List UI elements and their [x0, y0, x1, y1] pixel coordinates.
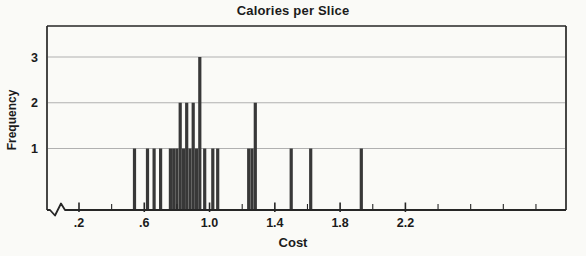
histogram-bar [159, 149, 162, 211]
plot-area: 123.2.61.01.41.82.2 [0, 0, 586, 256]
histogram-bar [360, 149, 363, 211]
histogram-bar [247, 149, 250, 211]
x-axis-with-break-squiggle [47, 204, 566, 216]
histogram-bar [211, 149, 214, 211]
histogram-bar [203, 149, 206, 211]
y-tick-label: 3 [31, 51, 38, 65]
histogram-bar [179, 103, 182, 210]
x-axis-label: Cost [0, 235, 586, 250]
histogram-bar [216, 149, 219, 211]
histogram-bar [250, 149, 253, 211]
x-tick-label: 1.4 [266, 216, 283, 230]
histogram-bar [146, 149, 149, 211]
y-tick-label: 2 [31, 96, 38, 110]
x-tick-label: 1.0 [201, 216, 218, 230]
histogram-bar [195, 149, 198, 211]
histogram-bar [169, 149, 172, 211]
histogram-bar [172, 149, 175, 211]
histogram-bar [309, 149, 312, 211]
histogram-bar [192, 103, 195, 210]
histogram-bar [133, 149, 136, 211]
x-tick-label: 2.2 [397, 216, 414, 230]
histogram-bar [198, 57, 201, 210]
y-axis-label: Frequency [5, 55, 21, 185]
histogram-bar [290, 149, 293, 211]
x-tick-label: .6 [139, 216, 149, 230]
histogram-bar [182, 149, 185, 211]
x-tick-label: .2 [74, 216, 84, 230]
histogram-bar [254, 103, 257, 210]
histogram-figure: 123.2.61.01.41.82.2 Calories per Slice F… [0, 0, 586, 256]
histogram-bar [188, 149, 191, 211]
histogram-bar [153, 149, 156, 211]
histogram-bar [185, 103, 188, 210]
y-tick-label: 1 [31, 142, 38, 156]
histogram-bar [175, 149, 178, 211]
x-tick-label: 1.8 [331, 216, 348, 230]
chart-title: Calories per Slice [0, 3, 586, 18]
